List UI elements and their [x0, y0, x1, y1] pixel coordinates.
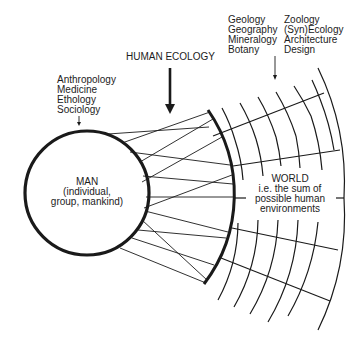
- man-subtitle: group, mankind): [37, 197, 137, 207]
- man-label: MAN (individual, group, mankind): [37, 177, 137, 207]
- world-label: WORLD i.e. the sum of possible human env…: [245, 174, 335, 214]
- environment-science-item: Botany: [228, 45, 277, 55]
- human-ecology-label: HUMAN ECOLOGY: [126, 52, 215, 62]
- environment-sciences-list-1: Geology Geography Mineralogy Botany: [228, 15, 277, 55]
- environment-sciences-list-2: Zoology (Syn)Ecology Architecture Design: [284, 15, 343, 55]
- human-science-item: Sociology: [57, 105, 116, 115]
- world-subtitle: environments: [245, 204, 335, 214]
- human-sciences-list: Anthropology Medicine Ethology Sociology: [57, 75, 116, 115]
- environment-science-item: Design: [284, 45, 343, 55]
